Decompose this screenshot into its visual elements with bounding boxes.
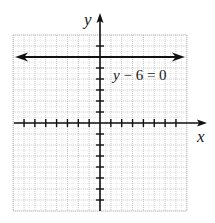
equation-rest: − 6 = 0	[120, 67, 167, 83]
equation-variable: y	[111, 67, 120, 83]
y-axis-label: y	[82, 10, 92, 29]
coordinate-plane: y x y − 6 = 0	[0, 0, 215, 223]
x-axis-label: x	[196, 127, 205, 146]
equation-label: y − 6 = 0	[111, 67, 167, 83]
